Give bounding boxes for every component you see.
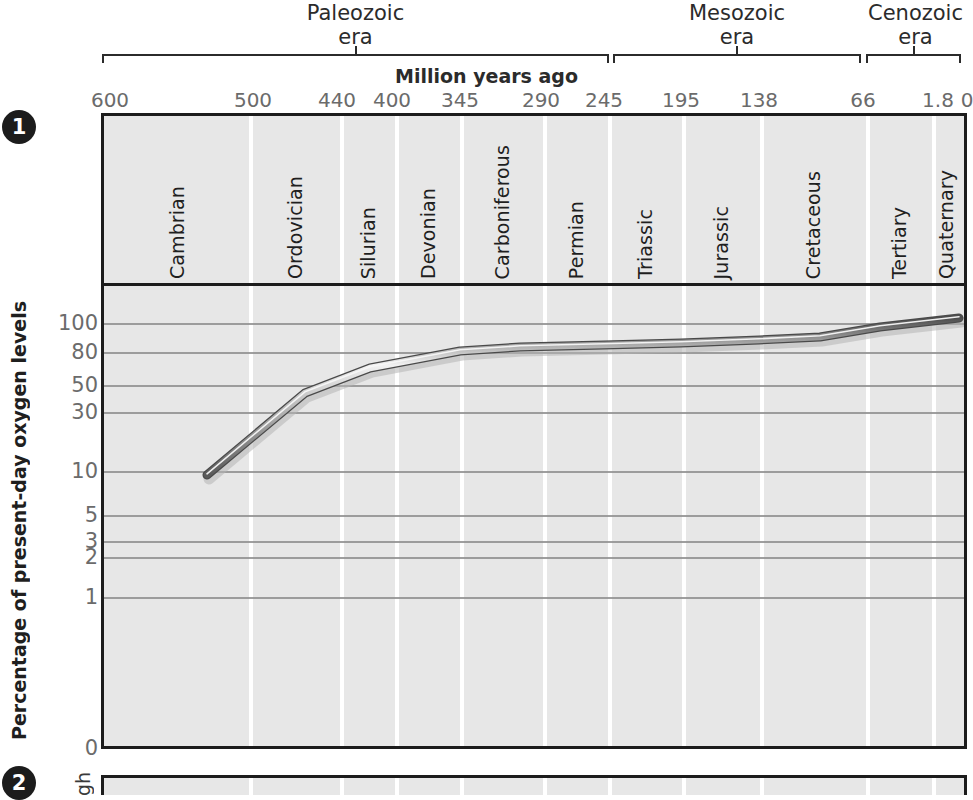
period-band-cambrian: Cambrian bbox=[104, 115, 249, 285]
era-bracket-mesozoic bbox=[613, 46, 861, 60]
period-label: Cretaceous bbox=[802, 171, 824, 279]
period-label: Ordovician bbox=[284, 176, 306, 279]
band-top-rule bbox=[101, 113, 967, 116]
period-label: Carboniferous bbox=[491, 145, 513, 279]
panel-2-y-axis-title-fragment: gh bbox=[72, 772, 94, 796]
grid-vertical bbox=[866, 778, 870, 795]
y-tick-100: 100 bbox=[6, 311, 98, 335]
era-bracket-cenozoic bbox=[866, 46, 961, 60]
period-label: Silurian bbox=[357, 207, 379, 279]
grid-vertical bbox=[340, 778, 344, 795]
y-tick-80: 80 bbox=[6, 340, 98, 364]
x-axis-title: Million years ago bbox=[0, 65, 973, 87]
grid-vertical bbox=[760, 778, 764, 795]
x-tick-345: 345 bbox=[441, 88, 479, 112]
period-label: Permian bbox=[565, 201, 587, 279]
period-band-devonian: Devonian bbox=[395, 115, 460, 285]
y-tick-5: 5 bbox=[6, 503, 98, 527]
grid-vertical bbox=[543, 778, 547, 795]
grid-vertical bbox=[395, 778, 399, 795]
grid-vertical bbox=[608, 778, 612, 795]
oxygen-curve bbox=[104, 286, 964, 748]
period-band-cretaceous: Cretaceous bbox=[760, 115, 866, 285]
x-tick-66: 66 bbox=[850, 88, 875, 112]
period-band-carboniferous: Carboniferous bbox=[460, 115, 543, 285]
era-label-paleozoic: Paleozoic era bbox=[102, 2, 609, 49]
period-band-jurassic: Jurassic bbox=[682, 115, 760, 285]
x-tick-500: 500 bbox=[234, 88, 272, 112]
y-tick-1: 1 bbox=[6, 585, 98, 609]
y-tick-30: 30 bbox=[6, 400, 98, 424]
y-tick-labels: 1008050301053210 bbox=[0, 0, 98, 792]
y-tick-10: 10 bbox=[6, 459, 98, 483]
grid-vertical bbox=[460, 778, 464, 795]
period-band-tertiary: Tertiary bbox=[866, 115, 932, 285]
period-band-strip: CambrianOrdovicianSilurianDevonianCarbon… bbox=[101, 115, 967, 285]
period-label: Jurassic bbox=[710, 206, 732, 279]
panel-2-plot-area bbox=[101, 775, 967, 795]
era-name: Cenozoic bbox=[868, 1, 963, 25]
y-tick-50: 50 bbox=[6, 373, 98, 397]
x-tick-1-8: 1.8 bbox=[922, 88, 954, 112]
x-tick-440: 440 bbox=[318, 88, 356, 112]
era-sub: era bbox=[338, 25, 372, 49]
plot-bottom-rule bbox=[101, 746, 967, 749]
period-band-ordovician: Ordovician bbox=[249, 115, 340, 285]
x-tick-138: 138 bbox=[740, 88, 778, 112]
grid-vertical bbox=[932, 778, 936, 795]
oxygen-plot-area bbox=[101, 286, 967, 748]
y-tick-0: 0 bbox=[6, 736, 98, 760]
period-label: Devonian bbox=[417, 188, 439, 279]
x-tick-400: 400 bbox=[373, 88, 411, 112]
period-band-permian: Permian bbox=[543, 115, 608, 285]
grid-vertical bbox=[682, 778, 686, 795]
x-tick-0: 0 bbox=[961, 88, 973, 112]
era-bracket-paleozoic bbox=[102, 46, 609, 60]
period-label: Triassic bbox=[634, 209, 656, 279]
period-band-silurian: Silurian bbox=[340, 115, 395, 285]
x-tick-245: 245 bbox=[585, 88, 623, 112]
era-sub: era bbox=[720, 25, 754, 49]
era-name: Mesozoic bbox=[689, 1, 785, 25]
era-name: Paleozoic bbox=[307, 1, 404, 25]
x-tick-195: 195 bbox=[662, 88, 700, 112]
period-label: Cambrian bbox=[166, 186, 188, 279]
era-sub: era bbox=[898, 25, 932, 49]
y-tick-2: 2 bbox=[6, 545, 98, 569]
period-band-triassic: Triassic bbox=[608, 115, 682, 285]
grid-vertical bbox=[249, 778, 253, 795]
x-tick-290: 290 bbox=[522, 88, 560, 112]
period-label: Tertiary bbox=[888, 207, 910, 279]
era-label-cenozoic: Cenozoic era bbox=[858, 2, 973, 49]
period-band-quaternary: Quaternary bbox=[932, 115, 960, 285]
period-label: Quaternary bbox=[935, 170, 957, 279]
era-label-mesozoic: Mesozoic era bbox=[613, 2, 861, 49]
